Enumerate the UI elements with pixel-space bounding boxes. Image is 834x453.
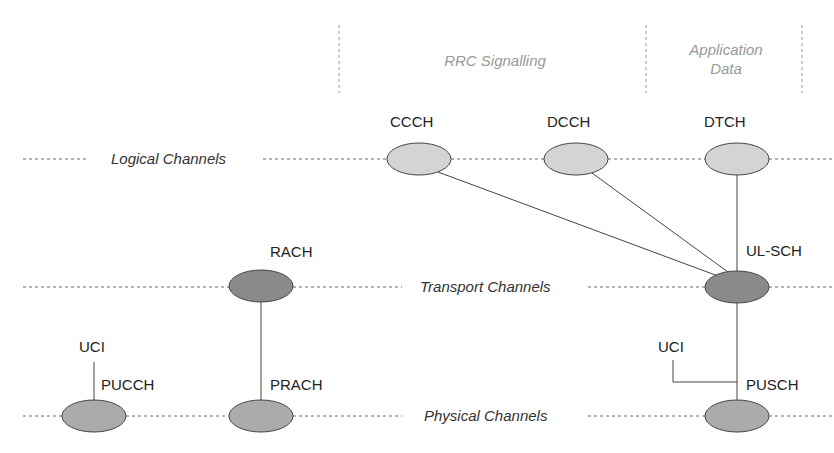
uci-left-label: UCI [79, 338, 105, 355]
ccch-label: CCCH [390, 113, 433, 130]
ccch-to-ulsch [438, 172, 718, 276]
logical-channels-label: Logical Channels [111, 150, 226, 167]
dtch-label: DTCH [704, 113, 746, 130]
ulsch-label: UL-SCH [746, 242, 802, 259]
physical-channels-label: Physical Channels [424, 407, 547, 424]
rach-label: RACH [270, 243, 313, 260]
pucch-label: PUCCH [101, 376, 154, 393]
application-data-line1: Application [666, 40, 786, 59]
pusch-node [705, 400, 769, 432]
transport-channels-label: Transport Channels [420, 278, 551, 295]
application-data-line2: Data [666, 59, 786, 78]
connection-lines [94, 172, 737, 400]
dtch-node [705, 143, 769, 175]
uci-right-label: UCI [658, 338, 684, 355]
dcch-to-ulsch [592, 173, 728, 272]
dcch-label: DCCH [547, 113, 590, 130]
ulsch-node [705, 271, 769, 303]
uci-to-pusch [673, 360, 737, 382]
pucch-node [62, 400, 126, 432]
pusch-label: PUSCH [746, 376, 799, 393]
prach-node [229, 400, 293, 432]
ccch-node [387, 143, 451, 175]
application-data-label: Application Data [666, 40, 786, 78]
rrc-signalling-label: RRC Signalling [420, 51, 570, 70]
rach-node [229, 270, 293, 302]
prach-label: PRACH [270, 376, 323, 393]
dcch-node [544, 143, 608, 175]
